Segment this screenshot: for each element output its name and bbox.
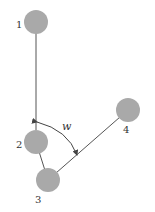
edge-3-4	[48, 110, 128, 180]
node-3	[36, 168, 60, 192]
node-2	[24, 130, 48, 154]
node-label-3: 3	[35, 194, 41, 205]
node-4	[116, 98, 140, 122]
angle-label: w	[62, 120, 72, 133]
node-label-2: 2	[16, 139, 22, 150]
node-1	[24, 10, 48, 34]
node-label-4: 4	[123, 124, 129, 135]
node-label-1: 1	[16, 19, 22, 30]
diagram-canvas: w 1 2 3 4	[0, 0, 155, 212]
